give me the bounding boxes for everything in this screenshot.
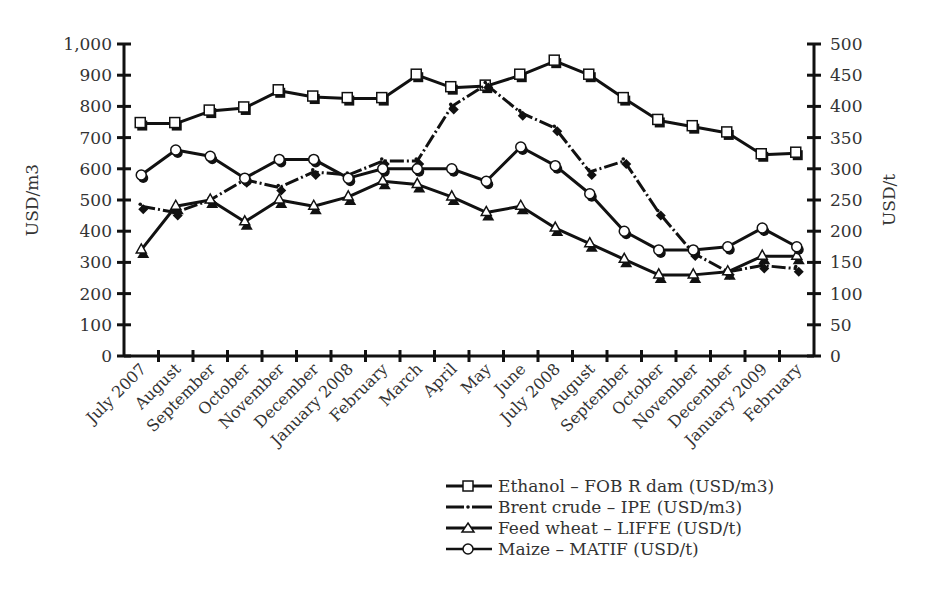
right-tick-label: 100 [830,284,862,304]
left-tick-label: 100 [80,315,112,335]
legend-label: Maize – MATIF (USD/t) [498,539,699,559]
right-tick-label: 300 [830,159,862,179]
left-tick-label: 600 [80,159,112,179]
legend-label: Ethanol – FOB R dam (USD/m3) [498,476,774,496]
square-marker-icon [444,479,494,493]
left-tick-label: 900 [80,65,112,85]
legend-item-ethanol: Ethanol – FOB R dam (USD/m3) [444,475,774,496]
circle-marker-icon [444,542,494,556]
legend-label: Feed wheat – LIFFE (USD/t) [498,518,742,538]
left-tick-label: 500 [80,190,112,210]
right-tick-label: 150 [830,252,862,272]
triangle-marker-icon [444,521,494,535]
right-axis-title: USD/t [879,174,899,226]
right-tick-label: 350 [830,128,862,148]
left-axis-title: USD/m3 [22,164,42,236]
legend-item-maize: Maize – MATIF (USD/t) [444,538,774,559]
right-tick-label: 50 [830,315,852,335]
left-tick-label: 1,000 [63,34,112,54]
legend-item-wheat: Feed wheat – LIFFE (USD/t) [444,517,774,538]
dot-marker-icon [444,500,494,514]
x-tick-label: April [418,359,460,401]
right-tick-label: 250 [830,190,862,210]
legend-item-brent: Brent crude – IPE (USD/m3) [444,496,774,517]
legend-label: Brent crude – IPE (USD/m3) [498,497,742,517]
left-tick-label: 700 [80,128,112,148]
left-tick-label: 200 [80,284,112,304]
series-circle [136,142,804,258]
x-axis: July 2007AugustSeptemberOctoberNovemberD… [81,350,814,451]
left-tick-label: 400 [80,221,112,241]
right-y-axis: 050100150200250300350400450500 [807,34,862,366]
left-tick-label: 300 [80,252,112,272]
right-tick-label: 500 [830,34,862,54]
left-y-axis: 01002003004005006007008009001,000 [63,34,131,366]
right-tick-label: 200 [830,221,862,241]
right-tick-label: 450 [830,65,862,85]
right-tick-label: 400 [830,96,862,116]
series-square [135,55,803,162]
series-layer [135,55,805,283]
left-tick-label: 800 [80,96,112,116]
legend: Ethanol – FOB R dam (USD/m3) Brent crude… [444,475,774,559]
series-triangle [136,175,805,283]
right-tick-label: 0 [830,346,841,366]
x-tick-label: May [457,359,495,397]
left-tick-label: 0 [101,346,112,366]
